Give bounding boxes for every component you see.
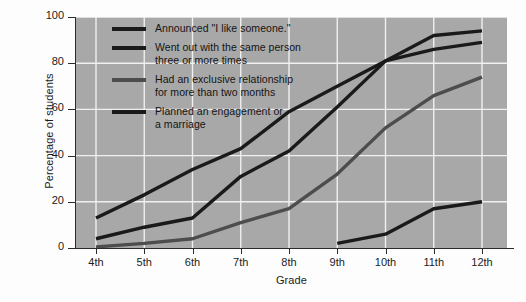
x-tick-label: 6th bbox=[185, 256, 200, 268]
y-axis-line bbox=[75, 17, 76, 249]
x-tick bbox=[96, 248, 97, 254]
x-tick-label: 11th bbox=[423, 256, 444, 268]
y-tick: 80 bbox=[68, 63, 76, 64]
y-axis-title: Percentage of students bbox=[38, 15, 60, 247]
legend-item-label: Announced "I like someone." bbox=[155, 22, 290, 35]
x-tick bbox=[434, 248, 435, 254]
x-tick-label: 4th bbox=[88, 256, 103, 268]
legend-item-label: Had an exclusive relationship for more t… bbox=[155, 73, 293, 99]
x-tick bbox=[289, 248, 290, 254]
x-tick bbox=[241, 248, 242, 254]
x-tick-label: 10th bbox=[375, 256, 396, 268]
y-tick: 20 bbox=[68, 202, 76, 203]
x-tick bbox=[144, 248, 145, 254]
legend-item: Had an exclusive relationship for more t… bbox=[112, 73, 382, 99]
x-tick-label: 12th bbox=[471, 256, 492, 268]
y-tick-label: 100 bbox=[46, 9, 64, 21]
legend-item-label: Went out with the same person three or m… bbox=[155, 41, 301, 67]
y-tick-label: 0 bbox=[58, 240, 64, 252]
legend-swatch-icon bbox=[112, 110, 146, 114]
legend-item: Planned an engagement or a marriage bbox=[112, 105, 382, 131]
x-tick-label: 7th bbox=[233, 256, 248, 268]
chart-legend: Announced "I like someone."Went out with… bbox=[112, 22, 382, 137]
chart-figure: Percentage of students 020406080100 4th5… bbox=[0, 0, 526, 302]
y-tick: 0 bbox=[68, 248, 76, 249]
x-axis-line bbox=[68, 248, 514, 249]
legend-swatch-icon bbox=[112, 46, 146, 50]
series-line-3 bbox=[337, 202, 482, 244]
legend-item-label: Planned an engagement or a marriage bbox=[155, 105, 283, 131]
legend-swatch-icon bbox=[112, 27, 146, 31]
x-tick bbox=[482, 248, 483, 254]
y-tick: 60 bbox=[68, 109, 76, 110]
y-tick-label: 40 bbox=[52, 148, 64, 160]
x-tick-label: 9th bbox=[330, 256, 345, 268]
x-tick bbox=[386, 248, 387, 254]
x-tick bbox=[337, 248, 338, 254]
legend-item: Went out with the same person three or m… bbox=[112, 41, 382, 67]
x-axis-title: Grade bbox=[76, 274, 507, 286]
legend-swatch-icon bbox=[112, 78, 146, 82]
legend-item: Announced "I like someone." bbox=[112, 22, 382, 35]
y-tick-label: 20 bbox=[52, 194, 64, 206]
x-tick-label: 5th bbox=[137, 256, 152, 268]
y-tick: 100 bbox=[68, 17, 76, 18]
y-tick-label: 60 bbox=[52, 101, 64, 113]
x-tick-label: 8th bbox=[281, 256, 296, 268]
y-tick-label: 80 bbox=[52, 55, 64, 67]
y-tick: 40 bbox=[68, 156, 76, 157]
x-tick bbox=[193, 248, 194, 254]
